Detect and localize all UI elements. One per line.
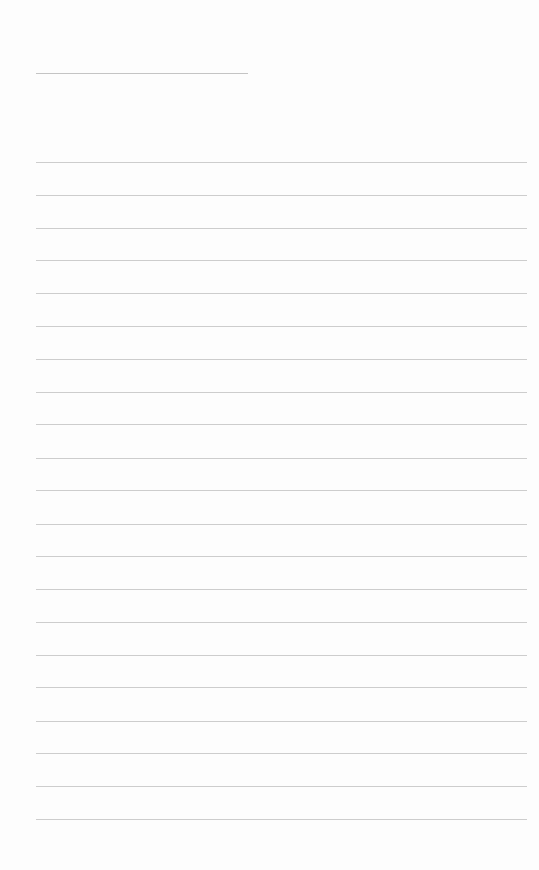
ruled-line (36, 392, 527, 393)
ruled-line (36, 655, 527, 656)
ruled-line (36, 490, 527, 491)
ruled-line (36, 458, 527, 459)
ruled-line (36, 786, 527, 787)
ruled-line (36, 293, 527, 294)
ruled-line (36, 162, 527, 163)
ruled-line (36, 359, 527, 360)
ruled-line (36, 556, 527, 557)
ruled-line (36, 687, 527, 688)
ruled-line (36, 424, 527, 425)
ruled-line (36, 819, 527, 820)
ruled-line (36, 589, 527, 590)
lined-paper-page (0, 0, 539, 870)
ruled-line (36, 524, 527, 525)
ruled-line (36, 228, 527, 229)
ruled-line (36, 195, 527, 196)
ruled-line (36, 622, 527, 623)
ruled-line (36, 260, 527, 261)
ruled-line (36, 753, 527, 754)
header-line (36, 73, 248, 74)
ruled-line (36, 721, 527, 722)
ruled-line (36, 326, 527, 327)
